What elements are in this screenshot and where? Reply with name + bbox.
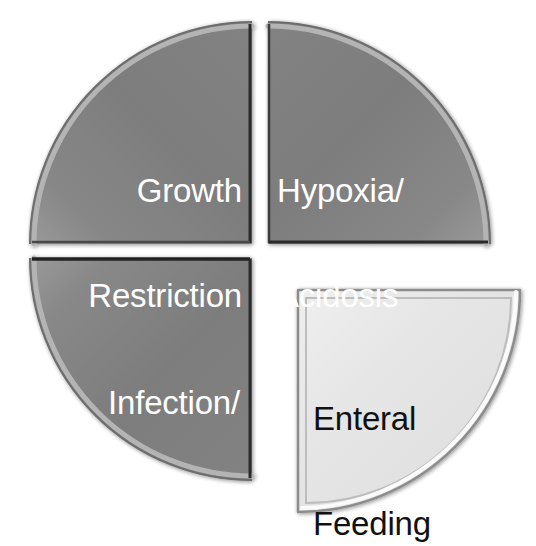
segment-enteral-feeding[interactable]	[298, 290, 520, 512]
segment-growth-restriction[interactable]	[30, 22, 252, 244]
segment-hypoxia-acidosis[interactable]	[268, 22, 490, 244]
segment-infection-antibiotics[interactable]	[30, 258, 252, 480]
